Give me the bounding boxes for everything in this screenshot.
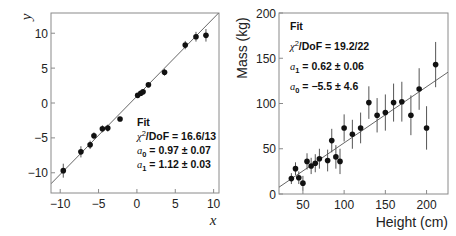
- y-tick-label: 150: [256, 52, 276, 66]
- data-point: [337, 149, 343, 174]
- marker: [350, 131, 356, 137]
- marker: [399, 99, 405, 105]
- data-point: [329, 129, 335, 153]
- data-point: [341, 114, 347, 141]
- marker: [300, 180, 306, 186]
- data-point: [399, 82, 405, 122]
- x-tick-label: 200: [417, 198, 437, 212]
- marker: [424, 125, 430, 131]
- marker: [416, 86, 422, 92]
- data-point: [433, 42, 439, 87]
- marker: [329, 138, 335, 144]
- marker: [304, 159, 310, 165]
- legend-line: χ2/DoF = 19.2/22: [289, 39, 369, 52]
- marker: [293, 166, 299, 172]
- marker: [391, 100, 397, 106]
- marker: [358, 125, 364, 131]
- data-point: [293, 162, 299, 175]
- legend-line: a1 = 0.62 ± 0.06: [290, 60, 364, 75]
- data-point: [424, 106, 430, 149]
- data-point: [391, 84, 397, 122]
- marker: [317, 156, 323, 162]
- y-tick-label: 100: [256, 97, 276, 111]
- data-point: [374, 98, 380, 132]
- data-point: [383, 94, 389, 130]
- data-point: [317, 149, 323, 169]
- data-point: [333, 145, 339, 169]
- marker: [383, 110, 389, 116]
- data-point: [358, 113, 364, 144]
- marker: [289, 176, 295, 182]
- x-tick-label: 50: [296, 198, 310, 212]
- data-point: [366, 86, 372, 119]
- marker: [333, 154, 339, 160]
- data-point: [350, 120, 356, 149]
- marker: [408, 112, 414, 118]
- legend: Fitχ2/DoF = 19.2/22a1 = 0.62 ± 0.06a0 = …: [289, 20, 369, 95]
- x-tick-label: 100: [334, 198, 354, 212]
- marker: [312, 160, 318, 166]
- marker: [325, 158, 331, 164]
- marker: [366, 100, 372, 106]
- marker: [341, 125, 347, 131]
- data-point: [416, 68, 422, 110]
- data-point: [312, 154, 318, 172]
- y-axis-label: Mass (kg): [234, 17, 250, 78]
- data-point: [408, 95, 414, 135]
- marker: [337, 159, 343, 165]
- legend-value: = −5.5 ± 4.6: [299, 80, 358, 92]
- marker: [296, 175, 302, 181]
- legend-value: = 0.62 ± 0.06: [299, 60, 364, 72]
- legend-value: /DoF = 19.2/22: [299, 40, 369, 52]
- marker: [374, 112, 380, 118]
- y-tick-label: 0: [269, 188, 276, 202]
- x-axis-label: Height (cm): [376, 214, 448, 230]
- marker: [433, 62, 439, 68]
- y-tick-label: 200: [256, 7, 276, 21]
- legend-title: Fit: [290, 20, 303, 32]
- legend-line: a0 = −5.5 ± 4.6: [290, 80, 358, 95]
- y-tick-label: 50: [263, 142, 277, 156]
- x-tick-label: 150: [375, 198, 395, 212]
- data-point: [289, 173, 295, 184]
- chart-right-mass-vs-height: 50100150200050100150200Height (cm)Mass (…: [0, 0, 456, 236]
- figure: −10−50510−10−50510xyFitχ2/DoF = 16.6/13a…: [0, 0, 456, 236]
